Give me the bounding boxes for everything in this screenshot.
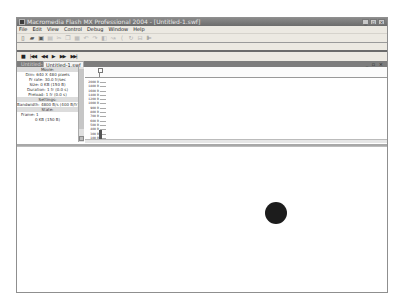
controller-bar: ■ |◀◀ ◀◀ ▶ ▶▶ ▶▶|: [17, 52, 387, 60]
playhead-line: [99, 72, 100, 77]
scale-icon[interactable]: ⊟: [137, 35, 143, 41]
streaming-graph: 2000 B 1800 B 1600 B 1400 B 1200 B 1000 …: [85, 67, 387, 142]
main-toolbar: ▯ ▰ ▣ ▤ ✂ ❐ ▦ ↶ ↷ ◧ ↝ ⟨ ↻ ⊟ ⊫: [17, 33, 387, 43]
title-bar[interactable]: Macromedia Flash MX Professional 2004 - …: [17, 18, 387, 26]
redo-icon[interactable]: ↷: [92, 35, 98, 41]
window-title: Macromedia Flash MX Professional 2004 - …: [27, 18, 200, 26]
open-icon[interactable]: ▰: [29, 35, 35, 41]
maximize-button[interactable]: ▫: [370, 19, 377, 25]
black-circle-sprite: [265, 202, 287, 224]
cut-icon[interactable]: ✂: [56, 35, 62, 41]
menu-view[interactable]: View: [47, 26, 59, 33]
snap-icon[interactable]: ◧: [101, 35, 107, 41]
menu-window[interactable]: Window: [108, 26, 128, 33]
scrollbar-thumb[interactable]: [79, 69, 84, 129]
save-icon[interactable]: ▣: [38, 35, 44, 41]
print-icon[interactable]: ▤: [47, 35, 53, 41]
scroll-down-arrow[interactable]: [79, 136, 84, 141]
bandwidth-profiler: Movie: Dim: 640 X 480 pixels Fr rate: 30…: [17, 67, 387, 146]
step-forward-button[interactable]: ▶▶: [60, 53, 66, 59]
graph-y-axis: 2000 B 1800 B 1600 B 1400 B 1200 B 1000 …: [85, 80, 99, 140]
maximize-icon: ▫: [372, 19, 375, 25]
app-icon: [19, 19, 25, 25]
graph-horizontal-scrollbar[interactable]: [85, 139, 387, 143]
menu-control[interactable]: Control: [64, 26, 82, 33]
frame-ruler[interactable]: [85, 67, 387, 78]
copy-icon[interactable]: ❐: [65, 35, 71, 41]
close-icon: ×: [379, 19, 383, 25]
minimize-button[interactable]: _: [362, 19, 369, 25]
menu-help[interactable]: Help: [133, 26, 144, 33]
menu-debug[interactable]: Debug: [87, 26, 103, 33]
smooth-icon[interactable]: ↝: [110, 35, 116, 41]
frame-1-data-bar[interactable]: [99, 130, 102, 139]
info-frame-size: 0 KB (150 B): [17, 117, 78, 122]
menu-file[interactable]: File: [19, 26, 27, 33]
minimize-icon: _: [364, 19, 367, 25]
go-to-end-button[interactable]: ▶▶|: [70, 53, 76, 59]
movie-stage[interactable]: [17, 146, 387, 292]
play-button[interactable]: ▶: [52, 53, 55, 59]
undo-icon[interactable]: ↶: [83, 35, 89, 41]
rewind-button[interactable]: |◀◀: [30, 53, 36, 59]
close-button[interactable]: ×: [378, 19, 385, 25]
new-icon[interactable]: ▯: [20, 35, 26, 41]
toolbar-separator: [17, 43, 387, 52]
flash-player-window: Macromedia Flash MX Professional 2004 - …: [16, 17, 388, 293]
align-icon[interactable]: ⊫: [146, 35, 152, 41]
info-panel-scrollbar[interactable]: [78, 67, 84, 142]
straighten-icon[interactable]: ⟨: [119, 35, 125, 41]
step-back-button[interactable]: ◀◀: [41, 53, 47, 59]
rotate-icon[interactable]: ↻: [128, 35, 134, 41]
profiler-info-panel: Movie: Dim: 640 X 480 pixels Fr rate: 30…: [17, 67, 79, 142]
menu-bar: File Edit View Control Debug Window Help: [17, 26, 387, 33]
paste-icon[interactable]: ▦: [74, 35, 80, 41]
menu-edit[interactable]: Edit: [32, 26, 42, 33]
stop-button[interactable]: ■: [21, 53, 25, 59]
